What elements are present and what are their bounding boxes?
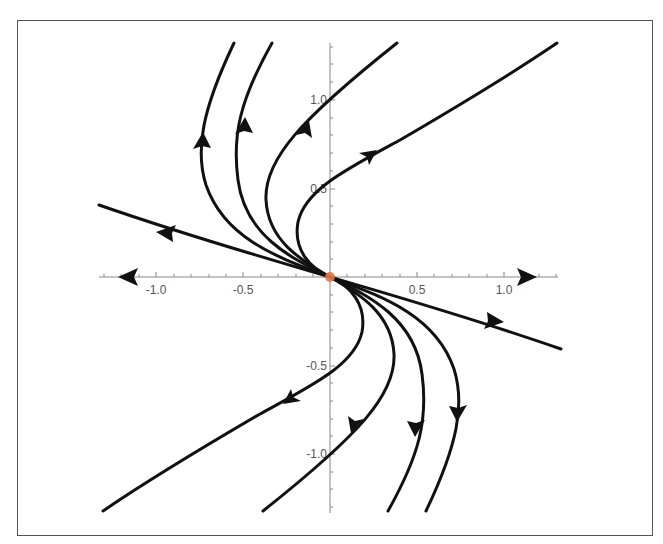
trajectory-right-flat (330, 277, 561, 349)
phase-portrait-plot: -1.0 -0.5 0.5 1.0 1.0 0.5 -0.5 -1.0 (0, 0, 663, 544)
trajectory-lower-4 (103, 277, 363, 511)
trajectory-upper-1 (201, 43, 330, 277)
trajectory-left-flat (99, 205, 330, 277)
fixed-point-marker (325, 272, 335, 282)
trajectory-upper-4 (297, 43, 557, 277)
trajectories-upper (99, 43, 557, 277)
x-tick-label: -0.5 (233, 283, 254, 297)
trajectory-lower-3 (263, 277, 394, 511)
y-tick-label: -0.5 (306, 359, 327, 373)
trajectory-lower-1 (330, 277, 459, 511)
x-tick-label: 1.0 (496, 283, 513, 297)
x-tick-label: 0.5 (409, 283, 426, 297)
x-tick-label: -1.0 (146, 283, 167, 297)
